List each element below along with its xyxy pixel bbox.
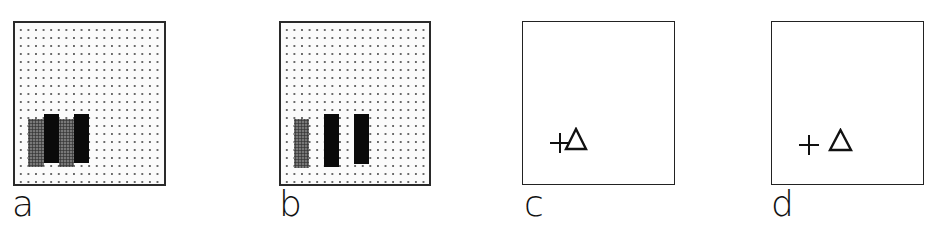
panel-b-black-bar-2 bbox=[354, 114, 369, 164]
panel-d-label: d bbox=[771, 186, 794, 222]
panel-a-gray-bar-2 bbox=[59, 119, 74, 167]
panel-a-black-bar-1 bbox=[44, 114, 59, 163]
panel-d-frame bbox=[771, 21, 924, 185]
panel-c-frame bbox=[522, 21, 675, 185]
panel-a-black-bar-2 bbox=[74, 114, 89, 163]
triangle-icon bbox=[828, 128, 853, 152]
panel-b-label: b bbox=[279, 186, 302, 222]
panel-c-label: c bbox=[524, 186, 544, 222]
triangle-icon bbox=[564, 127, 588, 151]
plus-icon bbox=[798, 134, 820, 156]
panel-a-gray-bar-1 bbox=[28, 119, 44, 167]
panel-b-gray-bar bbox=[294, 119, 309, 168]
panel-a-label: a bbox=[12, 186, 34, 222]
panel-b-black-bar-1 bbox=[324, 114, 339, 167]
